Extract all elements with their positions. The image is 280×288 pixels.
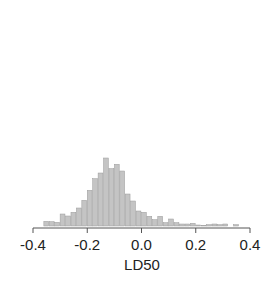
histogram-bar (185, 224, 190, 226)
histogram-bar (136, 211, 141, 226)
histogram-bar (98, 173, 103, 226)
histogram-bar (179, 224, 184, 226)
histogram-bar (207, 225, 212, 226)
histogram-bars (44, 158, 239, 226)
histogram-bar (82, 200, 87, 226)
histogram-bar (234, 225, 239, 226)
histogram-bar (131, 201, 136, 226)
x-axis: -0.4-0.20.00.20.4 (20, 228, 260, 253)
x-tick-label: -0.4 (20, 236, 46, 253)
histogram-bar (120, 171, 125, 226)
x-axis-label: LD50 (124, 256, 160, 273)
histogram-bar (190, 223, 195, 226)
histogram-bar (93, 179, 98, 226)
histogram-bar (55, 222, 60, 226)
histogram-bar (114, 164, 119, 226)
x-tick-label: 0.2 (185, 236, 206, 253)
histogram-bar (223, 224, 228, 226)
histogram-bar (163, 223, 168, 226)
histogram-bar (44, 221, 49, 226)
histogram-bar (174, 223, 179, 226)
histogram-bar (49, 222, 54, 226)
x-tick-label: 0.0 (131, 236, 152, 253)
histogram-bar (196, 225, 201, 226)
histogram-bar (152, 220, 157, 226)
histogram-bar (158, 216, 163, 226)
histogram-bar (76, 208, 81, 226)
histogram-bar (109, 169, 114, 226)
histogram-bar (201, 225, 206, 226)
histogram-bar (217, 225, 222, 226)
histogram-chart: -0.4-0.20.00.20.4 LD50 (0, 0, 280, 288)
histogram-bar (142, 212, 147, 226)
histogram-bar (147, 216, 152, 226)
x-tick-label: 0.4 (240, 236, 261, 253)
histogram-bar (104, 158, 109, 226)
histogram-bar (125, 194, 130, 226)
histogram-bar (66, 216, 71, 226)
histogram-bar (71, 212, 76, 226)
histogram-bar (169, 219, 174, 226)
histogram-bar (87, 190, 92, 226)
histogram-bar (212, 224, 217, 226)
x-tick-label: -0.2 (74, 236, 100, 253)
histogram-bar (60, 214, 65, 226)
